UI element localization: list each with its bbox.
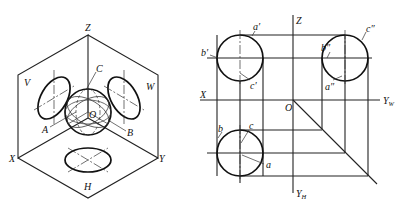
label-h: H xyxy=(83,181,92,192)
label-c-prime: c′ xyxy=(250,80,257,91)
label-b: B xyxy=(127,127,133,138)
label-o: O xyxy=(285,102,292,113)
label-c: C xyxy=(96,63,103,74)
label-z: Z xyxy=(85,22,91,33)
label-a-prime: a′ xyxy=(253,21,261,32)
orthographic-figure: Z X O YW YH a′ b′ c′ c″ b″ a″ b c a xyxy=(199,15,395,200)
h-plane-outline xyxy=(18,158,158,198)
label-z: Z xyxy=(296,15,302,26)
label-x: X xyxy=(199,89,207,100)
label-b-double-prime: b″ xyxy=(321,42,331,53)
leader-b xyxy=(108,120,126,131)
h-plane-circle-projection xyxy=(65,148,111,172)
label-a-top: a xyxy=(266,159,271,170)
label-w: W xyxy=(146,81,156,92)
label-b-prime: b′ xyxy=(201,47,209,58)
label-yh: YH xyxy=(296,188,307,200)
label-v: V xyxy=(24,77,32,88)
projection-diagram: Z V W C O A B X Y H xyxy=(0,0,402,206)
label-a-double-prime: a″ xyxy=(325,81,335,92)
label-b-top: b xyxy=(218,123,223,134)
isometric-figure: Z V W C O A B X Y H xyxy=(8,22,166,198)
label-o: O xyxy=(89,109,96,120)
label-c-top: c xyxy=(249,120,254,131)
label-x: X xyxy=(8,153,16,164)
label-yw: YW xyxy=(383,95,395,107)
diagonal-45 xyxy=(293,100,377,184)
label-a: A xyxy=(41,124,49,135)
label-c-double-prime: c″ xyxy=(366,23,375,34)
label-y: Y xyxy=(159,153,166,164)
